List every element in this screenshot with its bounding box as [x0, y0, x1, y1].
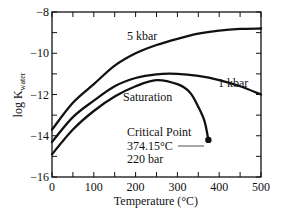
- x-tick-label: 0: [49, 180, 55, 194]
- critical-point-marker: [205, 137, 211, 143]
- x-axis-title: Temperature (°C): [114, 194, 198, 208]
- y-tick-label: −10: [30, 46, 49, 60]
- y-tick-label: −14: [30, 129, 49, 143]
- y-axis-title-sub: water: [18, 72, 27, 90]
- chart: 0100200300400500−16−14−12−10−8 5 kbar 1 …: [0, 0, 282, 218]
- y-tick-label: −12: [30, 88, 49, 102]
- x-tick-label: 100: [85, 180, 103, 194]
- x-tick-label: 400: [210, 180, 228, 194]
- label-1kbar: 1 kbar: [218, 76, 248, 90]
- y-axis-title-main: log K: [11, 90, 25, 117]
- y-tick-label: −8: [36, 5, 49, 19]
- critical-point-pressure: 220 bar: [127, 152, 163, 166]
- label-saturation: Saturation: [123, 90, 172, 104]
- y-tick-label: −16: [30, 170, 49, 184]
- x-tick-label: 500: [252, 180, 270, 194]
- label-5kbar: 5 kbar: [127, 29, 157, 43]
- critical-point-label: Critical Point: [127, 125, 192, 139]
- x-tick-label: 200: [127, 180, 145, 194]
- y-axis-title: log Kwater: [11, 72, 27, 117]
- critical-point-temp: 374.15°C: [127, 139, 173, 153]
- svg-text:log Kwater: log Kwater: [11, 72, 27, 117]
- x-tick-label: 300: [168, 180, 186, 194]
